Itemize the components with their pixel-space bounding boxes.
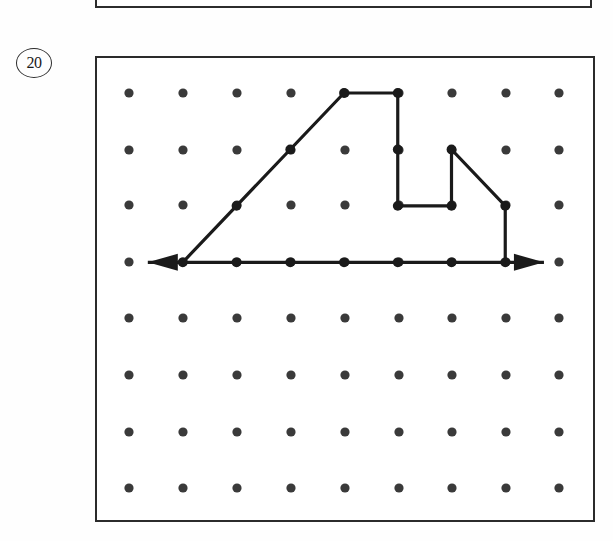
geoboard-frame [95, 56, 595, 522]
previous-problem-frame [95, 0, 592, 8]
worksheet-page: 20 [0, 0, 613, 541]
problem-number-badge: 20 [16, 48, 52, 78]
